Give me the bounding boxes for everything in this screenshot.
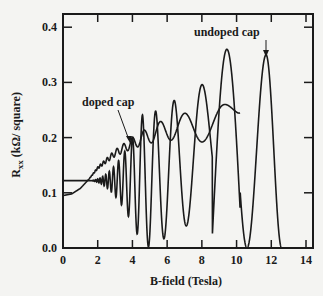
x-axis-title: B-field (Tesla) — [150, 274, 222, 288]
x-tick-label: 2 — [95, 253, 101, 267]
x-tick-labels: 02468101214 — [60, 253, 312, 267]
series-undoped-cap — [63, 49, 283, 248]
x-tick-label: 12 — [265, 253, 277, 267]
axis-ticks — [63, 14, 313, 248]
y-tick-label: 0.3 — [42, 75, 57, 89]
undoped-cap-arrowhead-icon — [263, 50, 269, 57]
x-tick-label: 8 — [199, 253, 205, 267]
y-tick-label: 0.1 — [42, 186, 57, 200]
doped-cap-arrow-line — [118, 110, 129, 140]
annotation-undoped-cap: undoped cap — [194, 25, 260, 39]
x-tick-label: 10 — [231, 253, 243, 267]
y-tick-label: 0.0 — [42, 241, 57, 255]
y-tick-label: 0.2 — [42, 131, 57, 145]
plot-frame — [63, 14, 313, 248]
y-tick-label: 0.4 — [42, 20, 57, 34]
x-tick-label: 0 — [60, 253, 66, 267]
x-tick-label: 4 — [129, 253, 135, 267]
annotation-doped-cap: doped cap — [82, 95, 135, 109]
chart: 02468101214 0.00.10.20.30.4 B-field (Tes… — [0, 0, 323, 296]
y-axis-title: Rxx (kΩ/ square) — [9, 92, 25, 178]
x-tick-label: 14 — [300, 253, 312, 267]
y-tick-labels: 0.00.10.20.30.4 — [42, 20, 57, 255]
x-tick-label: 6 — [164, 253, 170, 267]
